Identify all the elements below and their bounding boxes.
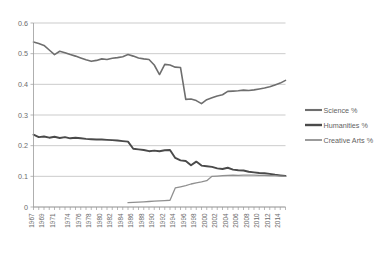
x-tick-label: 1996 xyxy=(180,213,187,228)
x-tick-label: 1971 xyxy=(49,213,56,228)
x-tick-label: 2004 xyxy=(222,213,229,228)
x-axis-tick-marks xyxy=(34,207,286,210)
x-tick-label: 1984 xyxy=(117,213,124,228)
x-tick-label: 2010 xyxy=(253,213,260,228)
chart-legend: Science %Humanities %Creative Arts % xyxy=(305,106,374,145)
x-tick-label: 2008 xyxy=(243,213,250,228)
data-series-group xyxy=(34,42,286,203)
y-tick-label: 0.4 xyxy=(18,80,28,89)
x-tick-label: 2002 xyxy=(211,213,218,228)
x-tick-label: 2012 xyxy=(264,213,271,228)
x-tick-label: 2006 xyxy=(232,213,239,228)
x-tick-label: 1992 xyxy=(159,213,166,228)
gridlines xyxy=(34,23,286,207)
y-tick-label: 0.2 xyxy=(18,141,28,150)
x-tick-label: 1998 xyxy=(190,213,197,228)
series-line-humanities xyxy=(34,135,286,176)
x-tick-label: 1967 xyxy=(28,213,35,228)
legend-label-3: Creative Arts % xyxy=(324,136,374,145)
x-tick-label: 1990 xyxy=(148,213,155,228)
x-tick-label: 1986 xyxy=(127,213,134,228)
x-tick-label: 1980 xyxy=(96,213,103,228)
x-tick-label: 1988 xyxy=(138,213,145,228)
y-tick-label: 0.1 xyxy=(18,172,28,181)
series-line-science xyxy=(34,42,286,104)
x-tick-label: 1969 xyxy=(38,213,45,228)
series-line-creative-arts xyxy=(128,175,286,203)
y-axis-tick-labels: 00.10.20.30.40.50.6 xyxy=(18,19,34,212)
x-tick-label: 2000 xyxy=(201,213,208,228)
chart-canvas: 00.10.20.30.40.50.6 19671969197119741976… xyxy=(0,0,387,256)
x-tick-label: 1974 xyxy=(64,213,71,228)
x-tick-label: 1994 xyxy=(169,213,176,228)
x-tick-label: 1976 xyxy=(75,213,82,228)
x-tick-label: 1978 xyxy=(85,213,92,228)
y-tick-label: 0.5 xyxy=(18,49,28,58)
line-chart: 00.10.20.30.40.50.6 19671969197119741976… xyxy=(0,0,387,256)
y-tick-label: 0.6 xyxy=(18,19,28,28)
y-tick-label: 0.3 xyxy=(18,111,28,120)
x-axis-tick-labels: 1967196919711974197619781980198219841986… xyxy=(28,213,282,228)
x-tick-label: 2014 xyxy=(274,213,281,228)
legend-label-2: Humanities % xyxy=(324,121,369,130)
legend-label-1: Science % xyxy=(324,106,359,115)
x-tick-label: 1982 xyxy=(106,213,113,228)
y-tick-label: 0 xyxy=(24,203,28,212)
